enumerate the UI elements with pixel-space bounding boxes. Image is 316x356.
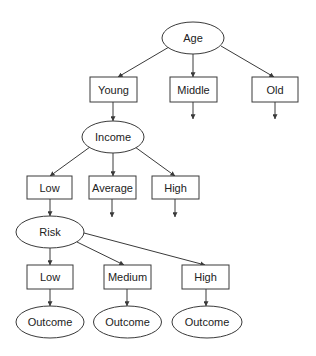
edge-age-old: [221, 46, 274, 77]
node-outcome-2-label: Outcome: [105, 316, 150, 328]
node-outcome-2: Outcome: [94, 306, 162, 338]
node-income-label: Income: [95, 131, 131, 143]
node-risk-medium-label: Medium: [108, 271, 147, 283]
node-income-high: High: [152, 176, 199, 199]
node-outcome-3: Outcome: [172, 306, 242, 338]
edge-risk-medium: [77, 242, 124, 265]
node-income-low: Low: [27, 176, 72, 199]
node-risk-high-label: High: [194, 271, 217, 283]
node-risk-label: Risk: [39, 226, 61, 238]
node-income-average: Average: [89, 176, 136, 199]
node-income-average-label: Average: [92, 182, 133, 194]
node-middle: Middle: [170, 77, 217, 102]
edge-risk-high: [84, 233, 205, 265]
node-old-label: Old: [266, 84, 283, 96]
node-risk-low-label: Low: [40, 271, 60, 283]
node-age: Age: [162, 22, 224, 54]
node-risk-high: High: [182, 265, 229, 289]
node-young: Young: [90, 77, 137, 102]
edge-age-young: [118, 47, 169, 77]
node-old: Old: [252, 77, 298, 102]
node-outcome-1-label: Outcome: [28, 316, 73, 328]
node-risk-medium: Medium: [104, 265, 151, 289]
node-income: Income: [82, 121, 144, 153]
node-age-label: Age: [183, 32, 203, 44]
node-outcome-1: Outcome: [16, 306, 84, 338]
edge-income-high: [135, 147, 175, 176]
node-risk-low: Low: [27, 265, 73, 289]
node-risk: Risk: [16, 216, 84, 248]
node-outcome-3-label: Outcome: [185, 316, 230, 328]
node-middle-label: Middle: [177, 84, 209, 96]
decision-tree-diagram: Age Young Middle Old Income Low Average …: [0, 0, 316, 356]
node-income-high-label: High: [164, 182, 187, 194]
node-income-low-label: Low: [39, 182, 59, 194]
node-young-label: Young: [98, 84, 129, 96]
edge-income-low: [50, 147, 90, 176]
